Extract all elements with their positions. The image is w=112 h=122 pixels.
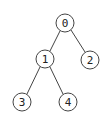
node-label: 2 (87, 54, 94, 67)
tree-node-0: 0 (56, 14, 74, 32)
edge-0-1 (50, 31, 60, 51)
tree-node-4: 4 (59, 93, 77, 111)
nodes: 0 1 2 3 4 (13, 14, 99, 111)
node-label: 0 (62, 17, 69, 30)
tree-diagram: 0 1 2 3 4 (0, 0, 112, 122)
node-label: 4 (65, 96, 72, 109)
tree-node-3: 3 (13, 93, 31, 111)
node-label: 1 (42, 53, 49, 66)
edge-1-3 (27, 67, 40, 94)
tree-node-1: 1 (36, 50, 54, 68)
node-label: 3 (19, 96, 26, 109)
edge-1-4 (50, 67, 63, 94)
tree-node-2: 2 (81, 51, 99, 69)
edge-0-2 (71, 30, 85, 52)
edges (27, 30, 85, 94)
